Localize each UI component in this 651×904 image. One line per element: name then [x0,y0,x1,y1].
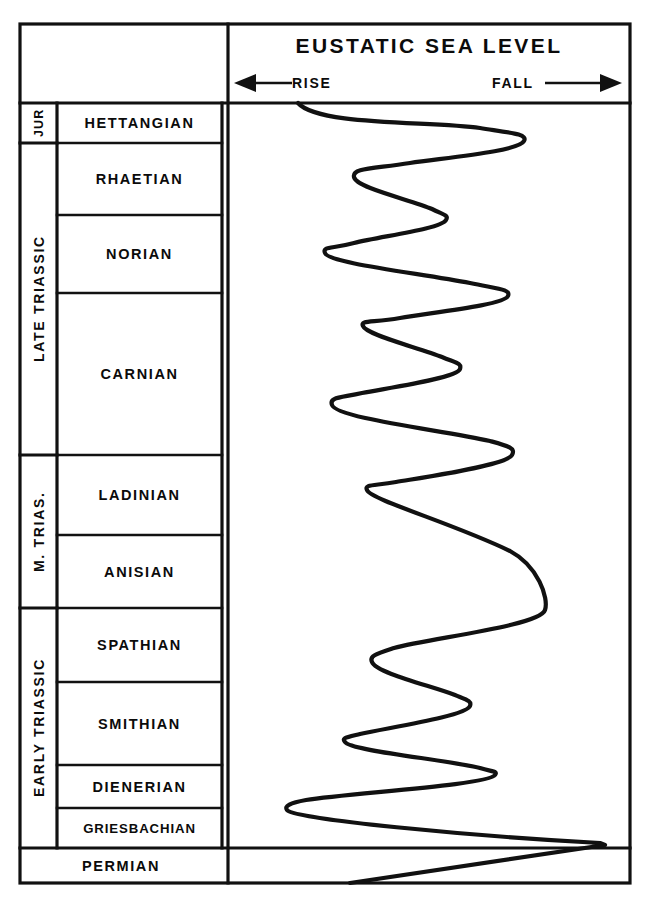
rise-direction-label: RISE [292,70,331,96]
figure-background [0,0,651,904]
sea-level-figure: EUSTATIC SEA LEVEL RISE FALL JUR LATE TR… [0,0,651,904]
figure-canvas [0,0,651,904]
fall-direction-label: FALL [492,70,534,96]
chart-title: EUSTATIC SEA LEVEL [228,28,630,64]
